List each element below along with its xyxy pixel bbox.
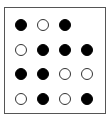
filled-circle-icon — [59, 19, 71, 31]
filled-circle-icon — [15, 68, 27, 80]
grid-cell — [10, 62, 32, 86]
hollow-circle-icon — [59, 68, 71, 80]
grid-cell — [54, 38, 76, 62]
hollow-circle-icon — [15, 93, 27, 105]
grid-row-1 — [10, 13, 98, 38]
grid-cell — [10, 38, 32, 62]
grid-cell — [76, 13, 98, 37]
grid-cell — [76, 62, 98, 86]
grid-row-4 — [10, 87, 98, 112]
grid-cell — [10, 13, 32, 37]
filled-circle-icon — [37, 44, 49, 56]
hollow-circle-icon — [81, 68, 93, 80]
hollow-circle-icon — [37, 19, 49, 31]
grid-cell — [32, 13, 54, 37]
grid-cell — [32, 87, 54, 111]
grid-row-2 — [10, 38, 98, 63]
grid-row-3 — [10, 62, 98, 87]
grid-cell — [54, 87, 76, 111]
grid-cell — [54, 62, 76, 86]
hollow-circle-icon — [15, 44, 27, 56]
grid-cell — [10, 87, 32, 111]
filled-circle-icon — [59, 44, 71, 56]
filled-circle-icon — [37, 68, 49, 80]
grid-cell — [54, 13, 76, 37]
filled-circle-icon — [15, 19, 27, 31]
filled-circle-icon — [81, 93, 93, 105]
dot-grid — [10, 13, 98, 111]
grid-cell — [76, 87, 98, 111]
grid-cell — [32, 38, 54, 62]
grid-cell — [76, 38, 98, 62]
filled-circle-icon — [81, 44, 93, 56]
filled-circle-icon — [37, 93, 49, 105]
grid-cell — [32, 62, 54, 86]
hollow-circle-icon — [59, 93, 71, 105]
